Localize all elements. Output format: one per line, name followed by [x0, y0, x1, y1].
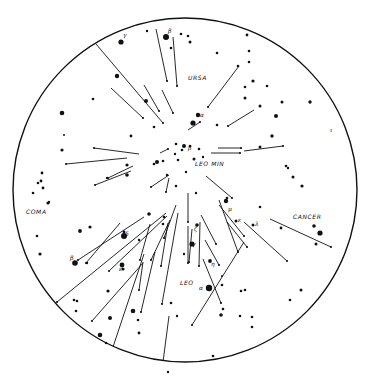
star	[40, 180, 43, 183]
star	[48, 201, 50, 203]
star-designation: α	[200, 111, 204, 118]
star	[108, 316, 112, 320]
star	[226, 197, 229, 200]
star	[239, 315, 242, 318]
star	[36, 235, 39, 238]
star	[251, 316, 254, 319]
star	[315, 243, 318, 246]
star	[270, 134, 273, 137]
star	[185, 171, 187, 173]
star	[187, 35, 190, 38]
label-coma: COMA	[26, 208, 47, 215]
meteor-end-marker	[188, 261, 190, 263]
star	[221, 284, 224, 287]
star	[281, 101, 284, 104]
label-leo: LEO	[180, 279, 194, 286]
star	[274, 114, 278, 118]
star	[312, 224, 316, 228]
label-leo-min: LEO MIN	[195, 160, 224, 167]
star	[182, 144, 186, 148]
star	[221, 275, 223, 277]
star-designation: β	[167, 27, 172, 35]
meteor-end-marker	[246, 246, 248, 248]
star	[259, 105, 262, 108]
star	[212, 355, 215, 358]
star	[76, 300, 79, 303]
star	[118, 39, 123, 44]
star	[308, 100, 311, 103]
star	[219, 313, 223, 317]
star	[170, 302, 173, 305]
star-designation: ε	[238, 216, 241, 223]
star	[259, 146, 262, 149]
meteor-end-marker	[140, 311, 142, 313]
star	[72, 260, 78, 266]
star	[106, 177, 108, 179]
star	[78, 229, 82, 233]
meteor-end-marker	[161, 303, 163, 305]
chart-background	[0, 0, 369, 378]
star	[248, 50, 251, 53]
star	[180, 33, 183, 36]
star	[222, 308, 225, 311]
star	[155, 160, 159, 164]
star	[246, 34, 249, 37]
star-designation: μ	[228, 205, 232, 213]
meteor-end-marker	[176, 85, 178, 87]
star	[177, 159, 180, 162]
meteor-end-marker	[218, 264, 220, 266]
star	[42, 187, 45, 190]
star	[237, 65, 240, 68]
meteor-end-marker	[187, 221, 189, 223]
star	[300, 289, 303, 292]
star	[240, 290, 243, 293]
star	[125, 163, 128, 166]
meteor-end-marker	[166, 80, 168, 82]
star	[170, 47, 173, 50]
star-designation: η	[211, 260, 215, 268]
meteor-end-marker	[94, 184, 96, 186]
meteor-end-marker	[165, 191, 167, 193]
meteor-end-marker	[191, 324, 193, 326]
meteor-end-marker	[220, 302, 222, 304]
meteor-end-marker	[65, 163, 67, 165]
star	[125, 173, 129, 177]
star	[37, 182, 40, 185]
meteor-end-marker	[160, 265, 162, 267]
meteor-end-marker	[198, 265, 200, 267]
star	[138, 332, 141, 335]
star	[88, 225, 91, 228]
star	[176, 315, 178, 317]
star	[153, 126, 156, 129]
meteor-end-marker	[243, 235, 245, 237]
star	[146, 30, 148, 32]
star	[106, 289, 109, 292]
meteor-end-marker	[56, 301, 58, 303]
star	[181, 149, 184, 152]
star	[75, 310, 78, 313]
star	[285, 165, 288, 168]
star	[147, 212, 151, 216]
star	[259, 206, 262, 209]
star	[137, 319, 140, 322]
star	[41, 172, 44, 175]
star	[144, 99, 148, 103]
star-designation: β	[187, 144, 192, 152]
star	[73, 299, 76, 302]
meteor-end-marker	[199, 121, 201, 123]
star	[216, 124, 219, 127]
star	[138, 239, 140, 241]
star	[162, 160, 165, 163]
star-designation: δ	[125, 230, 129, 237]
star	[183, 253, 185, 255]
meteor-end-marker	[207, 106, 209, 108]
meteor-end-marker	[139, 259, 141, 261]
star	[163, 34, 169, 40]
star	[198, 148, 201, 151]
meteor-end-marker	[91, 320, 93, 322]
star	[292, 176, 295, 179]
star	[195, 192, 197, 194]
star	[251, 326, 254, 329]
meteor-end-marker	[330, 246, 332, 248]
star	[131, 309, 136, 314]
